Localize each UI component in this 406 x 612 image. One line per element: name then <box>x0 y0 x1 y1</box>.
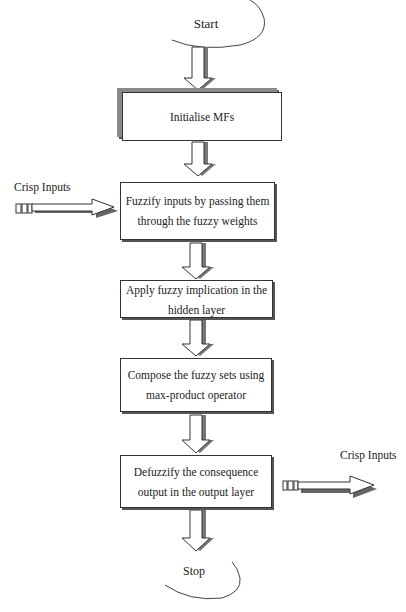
flow-arrow-5 <box>182 415 214 453</box>
flow-arrow-6 <box>182 510 214 551</box>
crisp-output-arrow-right <box>283 476 377 498</box>
flow-arrow-1 <box>184 47 216 90</box>
step-label: Defuzzify the consequence output in the … <box>125 462 267 502</box>
stop-label: Stop <box>172 564 216 579</box>
flow-arrow-2 <box>184 142 216 176</box>
step-initialise-mfs: Initialise MFs <box>122 92 282 141</box>
crisp-input-arrow-left <box>16 199 118 218</box>
step-fuzzify-inputs: Fuzzify inputs by passing them through t… <box>120 182 275 240</box>
flow-arrow-4 <box>182 320 214 356</box>
flow-arrow-3 <box>182 243 214 279</box>
crisp-inputs-left-label: Crisp Inputs <box>14 181 71 193</box>
step-defuzzify-output: Defuzzify the consequence output in the … <box>120 455 272 508</box>
crisp-inputs-right-label: Crisp Inputs <box>340 449 397 461</box>
step-label: Initialise MFs <box>170 107 234 127</box>
step-compose-fuzzy-sets: Compose the fuzzy sets using max-product… <box>120 358 272 412</box>
step-label: Apply fuzzy implication in the hidden la… <box>125 280 268 318</box>
step-label: Fuzzify inputs by passing them through t… <box>125 191 270 231</box>
start-label: Start <box>178 16 234 32</box>
step-apply-fuzzy-implication: Apply fuzzy implication in the hidden la… <box>120 280 273 318</box>
step-label: Compose the fuzzy sets using max-product… <box>125 365 267 405</box>
